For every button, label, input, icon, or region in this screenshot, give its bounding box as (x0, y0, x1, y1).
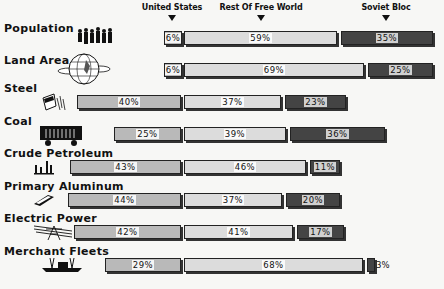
bar-population-us: 6% (164, 31, 182, 45)
bar-primary-aluminum-sb: 20% (286, 193, 340, 207)
bar-primary-aluminum-rw: 37% (184, 193, 282, 207)
arrow-down-icon (168, 15, 176, 21)
bar-crude-petroleum-sb: 11% (310, 160, 340, 174)
row-label-primary-aluminum: Primary Aluminum (4, 180, 124, 193)
aluminum-ingot-icon (32, 192, 56, 208)
bar-land-area-us: 6% (164, 63, 182, 77)
bar-electric-power-rw: 41% (184, 225, 293, 239)
row-label-crude-petroleum: Crude Petroleum (4, 147, 113, 160)
bar-coal-us: 25% (114, 127, 181, 141)
steel-ladle-icon (40, 90, 68, 114)
globe-icon (56, 50, 112, 88)
row-label-population: Population (4, 22, 74, 35)
arrow-down-icon (257, 15, 265, 21)
bar-land-area-sb: 25% (368, 63, 433, 77)
bar-electric-power-us: 42% (74, 225, 181, 239)
legend-rest-of-free-world: Rest Of Free World (219, 3, 302, 12)
bar-merchant-fleets-sb (367, 258, 375, 272)
power-pylon-icon (34, 222, 74, 242)
oil-derrick-icon (34, 159, 54, 175)
arrow-down-icon (382, 15, 390, 21)
bar-steel-sb: 23% (285, 95, 346, 109)
bar-coal-sb: 36% (290, 127, 385, 141)
row-label-coal: Coal (4, 115, 32, 128)
ship-icon (40, 256, 84, 274)
bar-population-sb: 35% (341, 31, 433, 45)
bar-population-rw: 59% (184, 31, 337, 45)
bar-primary-aluminum-us: 44% (68, 193, 181, 207)
legend-united-states: United States (142, 3, 202, 12)
bar-crude-petroleum-rw: 46% (184, 160, 306, 174)
bar-electric-power-sb: 17% (297, 225, 344, 239)
bar-crude-petroleum-us: 43% (70, 160, 181, 174)
legend-soviet-bloc: Soviet Bloc (361, 3, 410, 12)
merchant-fleets-sb-label: 3% (376, 260, 390, 270)
bar-merchant-fleets-us: 29% (105, 258, 181, 272)
people-crowd-icon (76, 25, 114, 47)
bar-coal-rw: 39% (184, 127, 286, 141)
coal-car-icon (36, 123, 86, 147)
row-label-steel: Steel (4, 82, 37, 95)
bar-steel-us: 40% (77, 95, 181, 109)
bar-land-area-rw: 69% (184, 63, 364, 77)
bar-steel-rw: 37% (184, 95, 281, 109)
bar-merchant-fleets-rw: 68% (184, 258, 363, 272)
